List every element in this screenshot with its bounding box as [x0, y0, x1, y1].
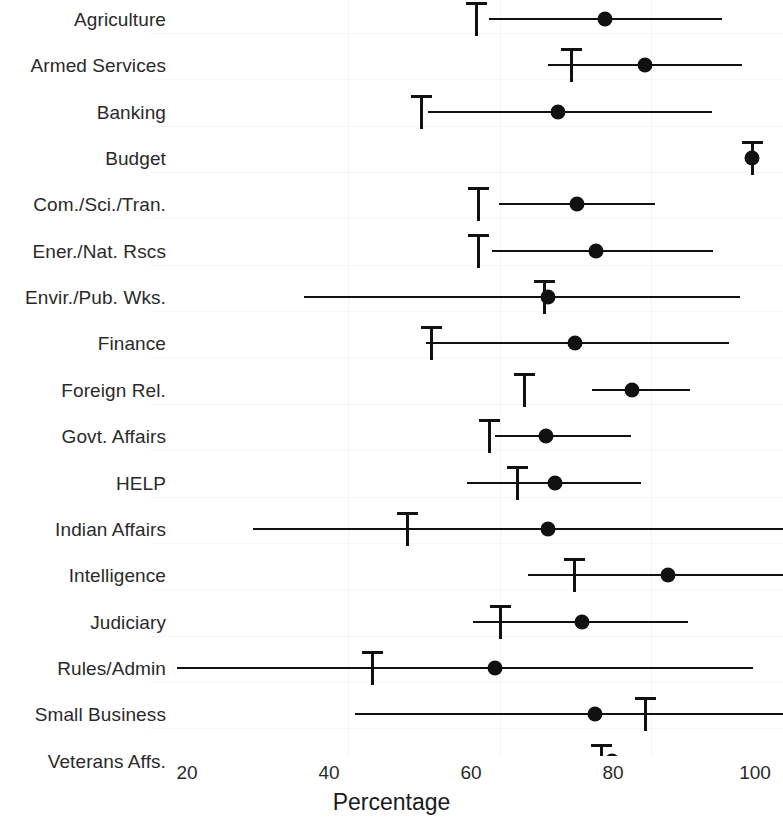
tick-stem — [644, 697, 647, 731]
ghost-gridline — [150, 543, 783, 544]
ghost-gridline — [150, 265, 783, 266]
x-tick-label: 80 — [602, 762, 623, 783]
category-label: Veterans Affs. — [0, 752, 166, 771]
ghost-gridline — [150, 450, 783, 451]
category-label: Com./Sci./Tran. — [0, 195, 166, 214]
category-label: Foreign Rel. — [0, 381, 166, 400]
point-marker — [625, 382, 640, 397]
tick-stem — [523, 373, 526, 407]
category-label: HELP — [0, 474, 166, 493]
interval-line — [428, 111, 711, 113]
point-marker — [574, 614, 589, 629]
category-label: Agriculture — [0, 10, 166, 29]
category-label: Envir./Pub. Wks. — [0, 288, 166, 307]
ghost-gridline — [150, 126, 783, 127]
point-marker — [488, 660, 503, 675]
category-label: Budget — [0, 149, 166, 168]
point-marker — [539, 429, 554, 444]
tick-stem — [488, 419, 491, 453]
ghost-gridline — [150, 33, 783, 34]
ghost-gridline — [150, 311, 783, 312]
tick-stem — [406, 512, 409, 546]
point-marker — [568, 336, 583, 351]
category-label: Indian Affairs — [0, 520, 166, 539]
point-marker — [745, 151, 760, 166]
tick-stem — [573, 558, 576, 592]
point-marker — [660, 568, 675, 583]
ghost-gridline — [150, 218, 783, 219]
category-label: Banking — [0, 103, 166, 122]
point-marker — [604, 753, 619, 756]
tick-stem — [600, 744, 603, 756]
dot-interval-chart: AgricultureArmed ServicesBankingBudgetCo… — [0, 0, 783, 822]
ghost-gridline — [150, 728, 783, 729]
tick-stem — [475, 2, 478, 36]
tick-stem — [516, 466, 519, 500]
category-label: Intelligence — [0, 566, 166, 585]
ghost-gridline — [150, 589, 783, 590]
tick-stem — [371, 651, 374, 685]
point-marker — [541, 521, 556, 536]
tick-stem — [499, 605, 502, 639]
x-tick-label: 20 — [176, 762, 197, 783]
tick-stem — [477, 187, 480, 221]
ghost-gridline — [150, 404, 783, 405]
point-marker — [588, 243, 603, 258]
point-marker — [551, 104, 566, 119]
point-marker — [569, 197, 584, 212]
category-label: Ener./Nat. Rscs — [0, 242, 166, 261]
point-marker — [637, 58, 652, 73]
ghost-gridline — [150, 357, 783, 358]
interval-line — [253, 528, 783, 530]
point-marker — [541, 290, 556, 305]
tick-stem — [430, 326, 433, 360]
x-tick-label: 40 — [318, 762, 339, 783]
x-tick-label: 100 — [739, 762, 771, 783]
interval-line — [592, 389, 689, 391]
category-label: Finance — [0, 334, 166, 353]
interval-line — [528, 574, 783, 576]
point-marker — [548, 475, 563, 490]
point-marker — [598, 12, 613, 27]
ghost-gridline — [150, 79, 783, 80]
ghost-gridline — [150, 636, 783, 637]
category-label: Rules/Admin — [0, 659, 166, 678]
category-label: Govt. Affairs — [0, 427, 166, 446]
point-marker — [587, 707, 602, 722]
interval-line — [495, 435, 631, 437]
category-label: Armed Services — [0, 56, 166, 75]
ghost-gridline — [150, 497, 783, 498]
x-axis-title: Percentage — [0, 789, 783, 815]
interval-line — [355, 713, 783, 715]
tick-stem — [570, 48, 573, 82]
category-label: Small Business — [0, 705, 166, 724]
tick-stem — [477, 234, 480, 268]
category-label: Judiciary — [0, 613, 166, 632]
ghost-gridline — [150, 682, 783, 683]
interval-line — [304, 296, 740, 298]
interval-line — [177, 667, 753, 669]
x-tick-label: 60 — [460, 762, 481, 783]
ghost-gridline — [150, 172, 783, 173]
tick-stem — [420, 95, 423, 129]
